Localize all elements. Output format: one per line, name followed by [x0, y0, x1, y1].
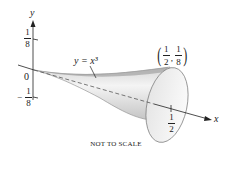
x-axis-arrow [204, 116, 212, 121]
caption: NOT TO SCALE [0, 140, 232, 148]
x-axis [18, 65, 34, 70]
curve-label: y = x³ [74, 56, 98, 66]
y-tick-negative [33, 97, 38, 98]
x-axis-label: x [214, 114, 218, 124]
y-tick-label-negative: 1 8 [25, 87, 32, 108]
negative-sign: − [17, 93, 22, 102]
y-tick-label-positive: 1 8 [24, 28, 31, 49]
x-tick-label: 1 2 [168, 113, 175, 134]
y-axis-arrow [31, 20, 36, 27]
origin-label: 0 [24, 72, 29, 82]
y-tick-positive [33, 39, 38, 40]
point-label: ( 1 2 , 1 8 ) [156, 44, 189, 67]
y-axis-label: y [30, 8, 34, 18]
